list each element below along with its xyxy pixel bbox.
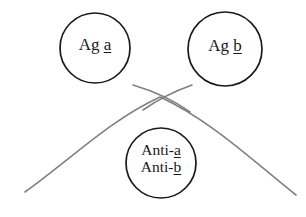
anti-b-line: Anti-b	[124, 158, 198, 175]
diagram-graphics	[0, 0, 306, 217]
ag-a-prefix: Ag	[79, 35, 104, 54]
anti-b-allele: b	[173, 158, 181, 175]
node-label-ag-b: Ag b	[190, 37, 260, 54]
crossover-arc-stub-right	[143, 85, 192, 110]
anti-a-prefix: Anti-	[141, 141, 174, 158]
node-label-anti-ab: Anti-a Anti-b	[124, 141, 198, 176]
anti-a-allele: a	[174, 141, 181, 158]
ag-b-allele: b	[233, 36, 242, 55]
anti-b-prefix: Anti-	[141, 158, 174, 175]
ag-a-allele: a	[104, 35, 112, 54]
ag-b-prefix: Ag	[208, 36, 233, 55]
node-label-ag-a: Ag a	[60, 36, 130, 53]
diagram-canvas: Ag a Ag b Anti-a Anti-b	[0, 0, 306, 217]
anti-a-line: Anti-a	[124, 141, 198, 158]
